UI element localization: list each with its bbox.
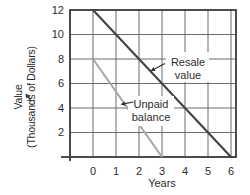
x-axis-label: Years <box>148 177 176 189</box>
x-tick-label-0: 0 <box>90 165 96 177</box>
x-tick-label-1: 1 <box>113 165 119 177</box>
x-tick-label-2: 2 <box>136 165 142 177</box>
x-tick-label-6: 6 <box>228 165 234 177</box>
resale-value-annotation-arrow-shaft <box>154 64 165 69</box>
resale-value-label: value <box>175 69 201 81</box>
x-tick-label-5: 5 <box>205 165 211 177</box>
y-axis-label-line1: Value <box>12 84 24 109</box>
x-tick-label-4: 4 <box>182 165 188 177</box>
y-tick-label-8: 8 <box>58 53 64 65</box>
y-tick-label-2: 2 <box>58 126 64 138</box>
unpaid-balance-label: Unpaid <box>134 98 169 110</box>
resale-value-label: Resale <box>171 56 205 68</box>
y-tick-label-12: 12 <box>52 4 64 16</box>
line-chart: ResalevalueUnpaidbalance246810120123456Y… <box>0 0 250 195</box>
y-tick-label-10: 10 <box>52 28 64 40</box>
y-tick-label-4: 4 <box>58 102 64 114</box>
unpaid-balance-label: balance <box>132 111 171 123</box>
x-tick-label-3: 3 <box>159 165 165 177</box>
y-tick-label-6: 6 <box>58 77 64 89</box>
chart-figure: ResalevalueUnpaidbalance246810120123456Y… <box>0 0 250 195</box>
